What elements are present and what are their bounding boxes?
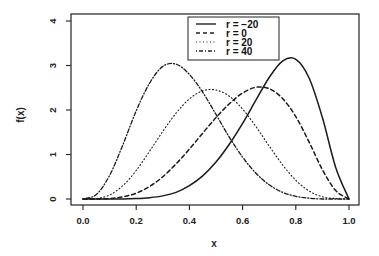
legend: r = −20 r = 0 r = 20 r = 40 [188,17,279,60]
plot-curves [83,58,349,199]
x-tick-label: 0.0 [76,215,89,226]
y-tick-label: 2 [47,107,58,112]
x-tick-label: 1.0 [342,215,355,226]
x-axis-title: x [211,238,217,249]
curve-dashed [83,87,349,199]
x-tick-label: 0.6 [236,215,249,226]
x-tick-label: 0.2 [130,215,143,226]
curve-solid [83,58,349,199]
curve-dashdot [83,63,349,199]
y-tick-label: 3 [47,63,58,68]
y-tick-label: 0 [47,196,58,201]
y-axis: 01234 [47,18,72,202]
legend-label-r-40: r = 40 [226,46,253,57]
x-tick-label: 0.4 [183,215,197,226]
x-tick-label: 0.8 [289,215,302,226]
y-tick-label: 4 [47,18,58,24]
y-axis-title: f(x) [15,107,26,123]
x-axis: 0.00.20.40.60.81.0 [76,205,355,226]
y-tick-label: 1 [47,151,58,157]
line-chart: 01234 0.00.20.40.60.81.0 x f(x) r = −20 … [0,0,379,256]
